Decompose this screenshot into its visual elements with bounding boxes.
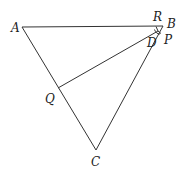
label-q: Q xyxy=(45,92,55,106)
side-ab xyxy=(22,26,163,27)
label-a: A xyxy=(10,21,20,35)
label-d: D xyxy=(146,36,157,50)
segment-dr xyxy=(156,27,158,32)
segment-qd xyxy=(58,31,158,88)
label-b: B xyxy=(166,17,176,31)
label-p: P xyxy=(163,33,173,47)
label-r: R xyxy=(152,10,162,24)
geometry-diagram: A R B D P Q C xyxy=(0,0,187,173)
label-c: C xyxy=(91,155,100,169)
side-ac xyxy=(22,27,96,150)
